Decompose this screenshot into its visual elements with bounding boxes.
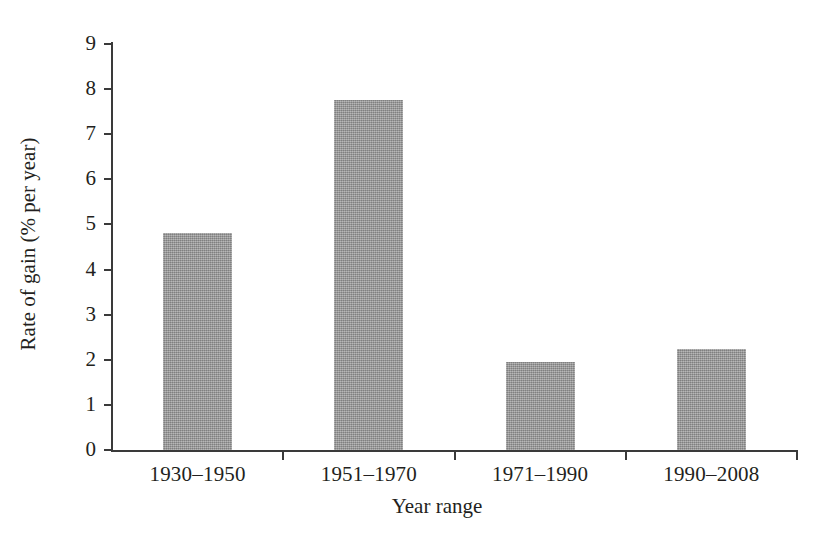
y-axis-title: Rate of gain (% per year): [16, 44, 40, 444]
y-axis-tick-label: 5: [56, 213, 96, 234]
bar: [506, 362, 575, 450]
plot-area: [112, 44, 797, 450]
bar-chart-figure: Rate of gain (% per year) 9876543210 193…: [0, 0, 834, 536]
y-axis-tick-label: 0: [56, 439, 96, 460]
y-axis-tick-label: 4: [56, 259, 96, 280]
y-axis-tick-label: 3: [56, 304, 96, 325]
y-axis-tick-label: 8: [56, 78, 96, 99]
bar: [677, 349, 746, 451]
x-axis-category-label: 1951–1970: [269, 462, 469, 486]
x-axis-category-label: 1990–2008: [611, 462, 811, 486]
y-axis-tick-label: 1: [56, 394, 96, 415]
bar: [163, 233, 232, 450]
y-axis-tick-label: 2: [56, 349, 96, 370]
y-axis-tick-label: 7: [56, 123, 96, 144]
bar: [334, 100, 403, 450]
y-axis-tick-label: 9: [56, 33, 96, 54]
x-axis-title-text: Year range: [392, 494, 483, 518]
x-axis-tick: [282, 450, 284, 460]
x-axis-title: Year range: [0, 494, 834, 518]
x-axis-tick: [796, 450, 798, 460]
x-axis-category-label: 1930–1950: [98, 462, 298, 486]
x-axis-tick: [625, 450, 627, 460]
y-axis-tick-label: 6: [56, 168, 96, 189]
x-axis-tick: [454, 450, 456, 460]
x-axis-category-label: 1971–1990: [440, 462, 640, 486]
